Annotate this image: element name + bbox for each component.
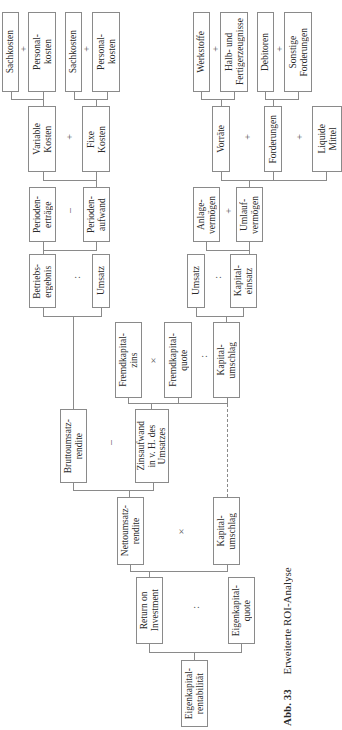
operator-plus: + <box>242 134 252 140</box>
node-label: Personal- kosten <box>96 34 117 70</box>
connector <box>96 99 97 106</box>
node-halb-fertigerzeugnisse: Halb- und Fertigerzeugnisse <box>220 12 248 92</box>
operator-plus: + <box>223 208 233 214</box>
node-periodenaufwand: Perioden- aufwand <box>83 187 110 242</box>
connector <box>107 92 108 99</box>
connector <box>243 308 244 316</box>
node-label: Umsatz <box>191 266 202 295</box>
connector <box>273 172 274 180</box>
node-label: Fixe Kosten <box>86 126 107 153</box>
figure-caption: Abb. 33 Erweiterte ROI-Analyse <box>281 560 293 726</box>
operator-divide: : <box>198 355 208 358</box>
node-umlaufvermoegen: Umlauf- vermögen <box>236 187 263 242</box>
connector <box>11 99 44 100</box>
connector <box>221 99 222 106</box>
node-label: Zinsaufwand in v. H. des Umsatzes <box>136 421 168 471</box>
connector <box>130 571 228 572</box>
node-label: Fremdkapital- zins <box>118 333 139 387</box>
connector <box>101 308 102 316</box>
dashed-connector <box>227 404 228 497</box>
operator-plus: + <box>64 134 74 140</box>
operator-times: × <box>176 526 186 537</box>
node-label: Betriebs- ergebnis <box>32 264 53 299</box>
connector <box>73 483 74 490</box>
connector <box>43 250 97 251</box>
operator-plus: + <box>294 134 304 140</box>
node-kapitaleinsatz: Kapital- einsatz <box>230 254 257 308</box>
node-label: Halb- und Fertigerzeugnisse <box>224 18 245 85</box>
node-umsatz-2: Umsatz <box>187 254 205 308</box>
connector <box>273 99 274 106</box>
node-debitoren: Debitoren <box>257 12 274 92</box>
connector <box>201 92 202 99</box>
node-sachkosten-2: Sachkosten <box>65 12 82 92</box>
node-label: Vorräte <box>216 125 227 153</box>
node-fremdkapitalquote: Fremdkapital- quote <box>164 322 192 398</box>
node-kapitalumschlag-1: Kapital- umschlag <box>213 322 240 398</box>
node-vorraete: Vorräte <box>212 106 230 172</box>
node-label: Perioden- erträge <box>32 196 53 233</box>
node-label: Sachkosten <box>5 30 16 73</box>
node-personalkosten-2: Personal- kosten <box>92 12 120 92</box>
node-label: Kapital- umschlag <box>216 513 237 549</box>
node-label: Variable Kosten <box>32 123 53 155</box>
operator-minus: – <box>105 440 115 445</box>
node-fremdkapitalzins: Fremdkapital- zins <box>115 322 142 398</box>
connector <box>206 242 207 250</box>
connector <box>196 316 244 317</box>
connector <box>149 652 242 653</box>
connector <box>196 308 197 316</box>
node-bruttoumsatzrendite: Bruttoumsatz- rendite <box>60 409 87 483</box>
node-label: Fremdkapital- quote <box>168 333 189 387</box>
node-label: Nettoumsatz- rendite <box>120 505 141 556</box>
operator-divide: : <box>190 606 200 609</box>
node-label: Anlage- vermögen <box>196 196 217 234</box>
operator-plus: + <box>81 46 91 52</box>
connector <box>265 92 266 99</box>
connector <box>234 92 235 99</box>
node-betriebsergebnis: Betriebs- ergebnis <box>29 254 56 308</box>
node-kapitalumschlag-2: Kapital- umschlag <box>213 497 240 565</box>
node-zinsaufwand: Zinsaufwand in v. H. des Umsatzes <box>135 409 169 483</box>
node-label: Debitoren <box>260 33 271 71</box>
caption-title: Erweiterte ROI-Analyse <box>281 567 293 674</box>
connector <box>73 490 154 491</box>
operator-minus: – <box>64 208 74 213</box>
node-nettoumsatzrendite: Nettoumsatz- rendite <box>117 497 144 565</box>
connector <box>326 172 327 180</box>
connector <box>201 99 235 100</box>
node-label: Eigenkapital- quote <box>231 585 252 636</box>
node-label: Return on Investment <box>139 589 160 631</box>
node-anlagevermoegen: Anlage- vermögen <box>193 187 220 242</box>
node-eigenkapitalquote: Eigenkapital- quote <box>228 577 255 644</box>
caption-number: Abb. 33 <box>281 689 293 726</box>
connector <box>153 483 154 490</box>
node-label: Kapital- einsatz <box>233 265 254 296</box>
connector <box>43 308 44 316</box>
node-variable-kosten: Variable Kosten <box>28 106 56 172</box>
node-label: Werkstoffe <box>196 31 207 73</box>
node-label: Forderungen <box>268 115 279 164</box>
node-werkstoffe: Werkstoffe <box>193 12 210 92</box>
node-liquide-mittel: Liquide Mittel <box>312 106 342 172</box>
operator-plus: + <box>210 46 220 52</box>
connector <box>43 242 44 254</box>
node-label: Kapital- umschlag <box>216 342 237 378</box>
node-label: Sonstige Forderungen <box>288 28 309 77</box>
connector <box>74 92 75 99</box>
node-label: Sachkosten <box>68 30 79 73</box>
connector <box>249 180 250 187</box>
node-label: Personal- kosten <box>32 34 53 70</box>
connector <box>194 652 195 660</box>
operator-plus: + <box>274 46 284 52</box>
connector <box>73 316 74 409</box>
connector <box>265 99 299 100</box>
connector <box>128 403 228 404</box>
node-forderungen: Forderungen <box>264 106 282 172</box>
operator-divide: : <box>71 276 81 279</box>
connector <box>74 99 108 100</box>
connector <box>298 92 299 99</box>
node-fixe-kosten: Fixe Kosten <box>82 106 110 172</box>
node-periodenertraege: Perioden- erträge <box>29 187 56 242</box>
node-label: Bruttoumsatz- rendite <box>63 419 84 473</box>
